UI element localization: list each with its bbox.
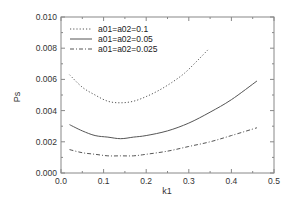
legend-entry-label: a01=a02=0.05 [98, 34, 153, 44]
x-tick-label: 0.1 [98, 176, 110, 186]
plot-border [61, 17, 274, 173]
chart-canvas: 0.00.10.20.30.40.50.0000.0020.0040.0060.… [0, 0, 291, 204]
y-tick-label: 0.004 [36, 106, 58, 116]
y-tick-label: 0.002 [36, 137, 58, 147]
x-tick-label: 0.4 [225, 176, 237, 186]
legend-entry-label: a01=a02=0.025 [98, 44, 158, 54]
y-tick-label: 0.008 [36, 43, 58, 53]
series-dotted-line [70, 50, 208, 103]
axis-ticks: 0.00.10.20.30.40.50.0000.0020.0040.0060.… [36, 12, 280, 186]
x-tick-label: 0.2 [140, 176, 152, 186]
x-tick-label: 0.3 [183, 176, 195, 186]
y-tick-label: 0.010 [36, 12, 58, 22]
plot-frame [61, 17, 274, 173]
x-axis-label: k1 [162, 186, 172, 196]
series-lines [70, 50, 257, 156]
legend-entry-label: a01=a02=0.1 [98, 24, 148, 34]
x-tick-label: 0.5 [268, 176, 280, 186]
legend: a01=a02=0.1a01=a02=0.05a01=a02=0.025 [70, 24, 158, 54]
y-axis-label: Ps [12, 91, 22, 102]
series-solid-line [70, 81, 257, 139]
y-tick-label: 0.006 [36, 74, 58, 84]
y-tick-label: 0.000 [36, 168, 58, 178]
